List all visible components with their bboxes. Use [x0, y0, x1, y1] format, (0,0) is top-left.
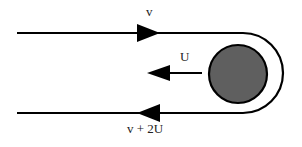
bottom-velocity-label: v + 2U — [127, 121, 163, 137]
arrow-right-icon — [137, 24, 160, 42]
body-velocity-arrow-icon — [147, 65, 170, 81]
top-velocity-label: v — [146, 4, 153, 20]
body-velocity-label: U — [180, 49, 189, 65]
arrow-left-icon — [137, 104, 160, 122]
moving-body-circle — [209, 45, 267, 103]
